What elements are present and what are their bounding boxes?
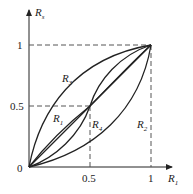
label-r3: R3	[61, 72, 73, 87]
origin-label: 0	[17, 162, 23, 174]
x-axis-label: R1	[167, 172, 178, 187]
x-tick-1: 1	[148, 172, 154, 184]
x-tick-05: 0.5	[82, 172, 96, 184]
label-r2: R2	[136, 118, 148, 133]
y-tick-05: 0.5	[10, 100, 24, 112]
y-axis-label: Rs	[34, 6, 45, 21]
label-r4: R4	[91, 118, 103, 133]
label-r1: R1	[52, 112, 63, 127]
relation-diagram: 1 0.5 0 0.5 1 Rs R1 R3 R1 R4 R2	[0, 0, 193, 194]
y-tick-1: 1	[17, 39, 23, 51]
